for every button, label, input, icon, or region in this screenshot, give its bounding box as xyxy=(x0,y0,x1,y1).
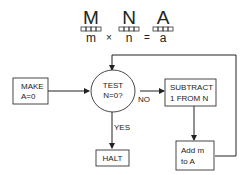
test-n-zero-decision: TEST N=0? xyxy=(91,70,135,112)
svg-text:HALT: HALT xyxy=(103,154,123,163)
svg-text:n: n xyxy=(126,31,133,45)
svg-text:1 FROM N: 1 FROM N xyxy=(170,94,208,103)
halt-box: HALT xyxy=(96,150,129,166)
svg-text:TEST: TEST xyxy=(103,81,124,90)
svg-text:m: m xyxy=(86,31,96,45)
svg-text:MAKE: MAKE xyxy=(21,82,44,91)
register-m: M m xyxy=(81,7,101,45)
add-m-to-a-box: Add m to A xyxy=(176,141,214,170)
svg-text:A: A xyxy=(157,7,170,28)
svg-text:M: M xyxy=(83,7,99,28)
svg-text:to A: to A xyxy=(181,157,195,166)
register-n: N n xyxy=(119,7,139,45)
subtract-box: SUBTRACT 1 FROM N xyxy=(165,79,216,106)
svg-text:N=0?: N=0? xyxy=(103,91,123,100)
make-a-zero-box: MAKE A=0 xyxy=(13,78,48,104)
svg-text:A=0: A=0 xyxy=(21,92,36,101)
no-label: NO xyxy=(138,95,150,104)
svg-text:SUBTRACT: SUBTRACT xyxy=(170,83,213,92)
svg-text:N: N xyxy=(122,7,136,28)
times-sign: × xyxy=(106,32,112,43)
svg-text:Add m: Add m xyxy=(181,146,204,155)
equals-sign: = xyxy=(144,32,150,43)
svg-text:a: a xyxy=(160,31,167,45)
multiplication-flowchart: M m × N n = A a MAKE A=0 TEST N= xyxy=(0,0,251,175)
register-a: A a xyxy=(153,7,173,45)
yes-label: YES xyxy=(114,123,130,132)
